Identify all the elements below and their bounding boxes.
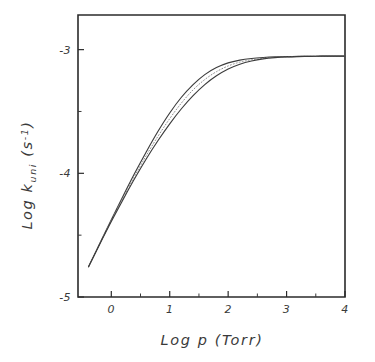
rate-constant-falloff-plot: 01234 -3-4-5 Log p (Torr) Log kuni (s-1) (0, 0, 375, 362)
data-curves (89, 56, 345, 267)
axes-frame (78, 15, 345, 297)
y-tick-label-0: -3 (59, 44, 71, 57)
x-tick-label-4: 4 (341, 303, 348, 316)
curve-lower-bound-curve (89, 56, 345, 267)
curve-middle-curve (89, 56, 345, 267)
x-tick-label-0: 0 (108, 303, 115, 316)
x-tick-label-1: 1 (166, 303, 173, 316)
y-axis-ticks (78, 50, 84, 297)
y-tick-label-2: -5 (59, 291, 71, 304)
x-axis-ticks (111, 291, 345, 297)
y-tick-label-1: -4 (59, 167, 71, 180)
y-axis-tick-labels: -3-4-5 (59, 44, 71, 304)
x-tick-label-3: 3 (283, 303, 290, 316)
figure-container: 01234 -3-4-5 Log p (Torr) Log kuni (s-1) (0, 0, 375, 362)
x-axis-title: Log p (Torr) (161, 332, 264, 348)
x-axis-title-text: Log p (Torr) (161, 332, 264, 348)
y-axis-title-text: Log kuni (s-1) (19, 120, 38, 229)
y-axis-title: Log kuni (s-1) (19, 120, 38, 229)
plot-frame (78, 15, 345, 297)
x-axis-tick-labels: 01234 (108, 303, 349, 316)
x-tick-label-2: 2 (224, 303, 231, 316)
curve-upper-bound-curve (89, 56, 345, 267)
